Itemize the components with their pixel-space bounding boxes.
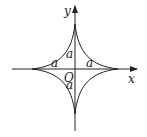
label-a-bottom: a	[66, 78, 73, 92]
label-a-top: a	[66, 47, 73, 61]
label-a-right: a	[86, 56, 93, 70]
astroid-diagram: y x O a a a a	[0, 0, 147, 137]
x-axis-label: x	[128, 72, 135, 86]
label-a-left: a	[51, 56, 58, 70]
y-axis-label: y	[63, 4, 71, 18]
